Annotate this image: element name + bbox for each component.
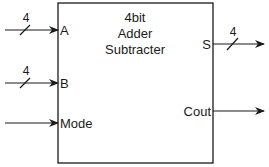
- output-s-label: S: [202, 37, 211, 52]
- output-s-signal: 4 S: [202, 25, 264, 52]
- input-a-label: A: [60, 23, 69, 38]
- input-b-signal: 4 B: [5, 64, 69, 91]
- block-title-line-1: 4bit: [125, 10, 146, 25]
- input-mode-label: Mode: [60, 116, 93, 131]
- input-b-bus-width: 4: [23, 64, 30, 78]
- input-mode-signal: Mode: [5, 116, 93, 131]
- input-a-signal: 4 A: [5, 11, 69, 38]
- output-s-bus-width: 4: [230, 25, 237, 39]
- output-cout-label: Cout: [184, 104, 212, 119]
- block-title-line-2: Adder: [118, 26, 153, 41]
- block-title-line-3: Subtracter: [105, 42, 166, 57]
- block-diagram: 4bit Adder Subtracter 4 A 4 B Mode 4 S C…: [0, 0, 269, 167]
- input-a-bus-width: 4: [23, 11, 30, 25]
- output-cout-signal: Cout: [184, 104, 264, 119]
- input-b-label: B: [60, 76, 69, 91]
